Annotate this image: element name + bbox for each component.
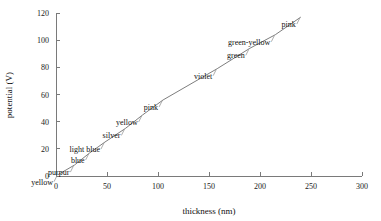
y-axis-title: potential (V) [4, 72, 14, 118]
y-tick-label: 60 [41, 91, 49, 100]
x-tick-label: 100 [152, 182, 164, 191]
x-tick-label: 250 [305, 182, 317, 191]
point-label: pink [282, 20, 296, 29]
point-label: green-yellow [228, 38, 270, 47]
tick-labels: 050100150200250300020406080100120 [37, 9, 368, 191]
y-tick-label: 120 [37, 9, 49, 18]
point-label: blue [71, 156, 85, 165]
point-label: green [227, 51, 245, 60]
axes [56, 13, 362, 176]
point-label: silver [103, 131, 121, 140]
y-tick-label: 100 [37, 36, 49, 45]
point-label: purpur [48, 168, 70, 177]
y-tick-label: 40 [41, 118, 49, 127]
scatter-plot: 050100150200250300020406080100120 yellow… [0, 0, 381, 221]
point-label: yellow [31, 178, 53, 187]
y-tick-label: 20 [41, 145, 49, 154]
point-label: violet [194, 72, 213, 81]
x-axis-title: thickness (nm) [182, 206, 235, 216]
tick-marks [56, 13, 362, 176]
x-tick-label: 150 [203, 182, 215, 191]
x-tick-label: 50 [103, 182, 111, 191]
point-label: pink [144, 103, 158, 112]
point-label: light blue [70, 145, 101, 154]
point-labels: yellowpurpurbluelight bluesilveryellowpi… [31, 20, 296, 187]
x-tick-label: 200 [254, 182, 266, 191]
point-label: yellow [116, 118, 138, 127]
x-tick-label: 0 [54, 182, 58, 191]
y-tick-label: 80 [41, 63, 49, 72]
x-tick-label: 300 [356, 182, 368, 191]
chart-figure: 050100150200250300020406080100120 yellow… [0, 0, 381, 221]
